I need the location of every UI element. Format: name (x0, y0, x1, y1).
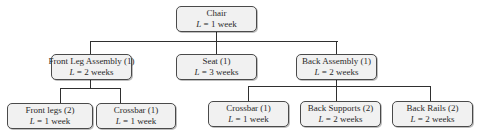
product-structure-diagram: Chair L = 1 week Front Leg Assembly (1) … (0, 0, 480, 138)
connector-to-back-rails (430, 86, 431, 101)
connector-back-children-bar (248, 86, 431, 87)
node-crossbar-front-name: Crossbar (1) (114, 105, 159, 116)
node-seat-name: Seat (1) (202, 56, 230, 67)
node-crossbar-front-lead-time: L = 1 week (116, 116, 156, 127)
connector-to-back-supports (336, 86, 337, 101)
node-seat: Seat (1) L = 3 weeks (176, 54, 257, 80)
node-chair: Chair L = 1 week (176, 6, 257, 32)
node-back-rails: Back Rails (2) L = 2 weeks (392, 101, 473, 127)
node-back-supports-name: Back Supports (2) (308, 103, 374, 114)
node-front-legs: Front legs (2) L = 1 week (7, 103, 93, 129)
node-front-leg-assembly-name: Front Leg Assembly (1) (48, 56, 134, 67)
connector-front-leg-children-bar (60, 88, 121, 89)
node-front-legs-lead-time: L = 1 week (30, 116, 70, 127)
connector-to-front-legs (60, 88, 61, 103)
node-chair-name: Chair (207, 8, 227, 19)
node-chair-lead-time: L = 1 week (196, 19, 236, 30)
node-back-assembly: Back Assembly (1) L = 2 weeks (296, 54, 377, 80)
connector-to-seat (216, 41, 217, 54)
node-back-rails-name: Back Rails (2) (407, 103, 459, 114)
node-crossbar-back: Crossbar (1) L = 1 week (208, 101, 289, 127)
connector-to-back-assembly (336, 41, 337, 54)
connector-front-leg-assembly-down (90, 79, 91, 88)
node-back-assembly-name: Back Assembly (1) (302, 56, 371, 67)
connector-to-front-leg-assembly (90, 41, 91, 54)
node-front-leg-assembly: Front Leg Assembly (1) L = 2 weeks (51, 54, 132, 80)
node-crossbar-front: Crossbar (1) L = 1 week (96, 103, 176, 129)
node-back-assembly-lead-time: L = 2 weeks (315, 67, 359, 78)
node-front-leg-assembly-lead-time: L = 2 weeks (70, 67, 114, 78)
connector-level2-bar (90, 41, 338, 42)
node-crossbar-back-name: Crossbar (1) (226, 103, 271, 114)
connector-to-crossbar-back (248, 86, 249, 101)
node-back-rails-lead-time: L = 2 weeks (411, 114, 455, 125)
node-front-legs-name: Front legs (2) (26, 105, 75, 116)
node-back-supports: Back Supports (2) L = 2 weeks (300, 101, 381, 127)
node-back-supports-lead-time: L = 2 weeks (319, 114, 363, 125)
node-seat-lead-time: L = 3 weeks (195, 67, 239, 78)
connector-to-crossbar-front (120, 88, 121, 103)
node-crossbar-back-lead-time: L = 1 week (228, 114, 268, 125)
